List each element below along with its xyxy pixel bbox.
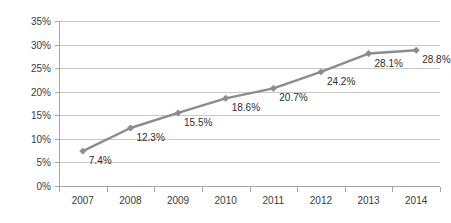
x-tick-label: 2013 <box>357 195 380 206</box>
y-tick-label: 30% <box>31 40 51 51</box>
data-point-label: 28.1% <box>375 58 403 69</box>
data-point-label: 7.4% <box>89 155 112 166</box>
data-point-label: 24.2% <box>327 76 355 87</box>
line-chart: 0%5%10%15%20%25%30%35% 20072008200920102… <box>0 0 451 223</box>
y-tick-label: 0% <box>37 181 52 192</box>
data-point-label: 28.8% <box>422 54 450 65</box>
chart-background <box>0 0 451 223</box>
y-tick-label: 5% <box>37 157 52 168</box>
data-point-label: 18.6% <box>232 102 260 113</box>
data-point-label: 15.5% <box>184 117 212 128</box>
y-tick-label: 25% <box>31 63 51 74</box>
data-point-label: 12.3% <box>136 132 164 143</box>
x-tick-label: 2010 <box>215 195 238 206</box>
x-tick-label: 2008 <box>119 195 142 206</box>
x-tick-label: 2011 <box>263 195 285 206</box>
data-point-label: 20.7% <box>279 92 307 103</box>
x-tick-label: 2014 <box>405 195 428 206</box>
y-tick-label: 20% <box>31 87 51 98</box>
y-tick-label: 15% <box>31 110 51 121</box>
x-tick-label: 2009 <box>167 195 190 206</box>
x-tick-label: 2007 <box>72 195 95 206</box>
x-tick-label: 2012 <box>310 195 333 206</box>
chart-canvas: 0%5%10%15%20%25%30%35% 20072008200920102… <box>0 0 451 223</box>
y-tick-label: 35% <box>31 16 51 27</box>
y-tick-label: 10% <box>31 134 51 145</box>
